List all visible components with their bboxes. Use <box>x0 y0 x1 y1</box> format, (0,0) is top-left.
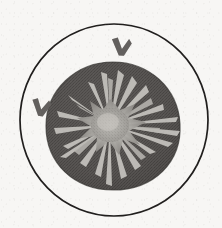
figure-canvas <box>0 0 222 228</box>
figure-illustration <box>0 0 222 228</box>
starburst-core-highlight <box>97 113 119 131</box>
